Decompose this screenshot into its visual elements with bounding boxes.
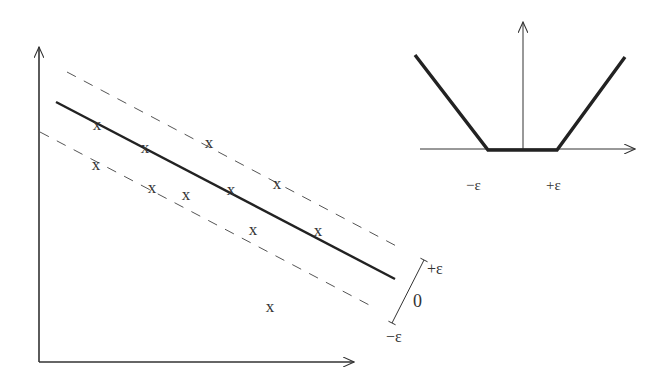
svr-epsilon-tube-figure: xxxxxxxxxxx +ε 0 −ε −ε +ε bbox=[0, 0, 666, 388]
upper-epsilon-margin-line bbox=[67, 72, 402, 249]
data-points: xxxxxxxxxxx bbox=[92, 115, 323, 316]
epsilon-insensitive-loss-curve bbox=[415, 55, 625, 150]
label-plus-epsilon: +ε bbox=[427, 260, 443, 277]
data-point-marker: x bbox=[227, 180, 236, 199]
inset-label-minus-epsilon: −ε bbox=[466, 177, 481, 193]
inset-loss-plot: −ε +ε bbox=[415, 22, 635, 193]
lower-epsilon-margin-line bbox=[40, 132, 373, 307]
data-point-marker: x bbox=[273, 174, 282, 193]
data-point-marker: x bbox=[314, 221, 323, 240]
regression-line bbox=[56, 102, 395, 279]
data-point-marker: x bbox=[92, 155, 101, 174]
inset-label-plus-epsilon: +ε bbox=[546, 177, 561, 193]
tube-width-bracket: +ε 0 −ε bbox=[386, 258, 443, 345]
label-zero: 0 bbox=[413, 291, 422, 311]
bracket-cap-bottom bbox=[388, 321, 395, 325]
data-point-marker: x bbox=[249, 220, 258, 239]
data-point-marker: x bbox=[93, 115, 102, 134]
label-minus-epsilon: −ε bbox=[386, 328, 402, 345]
data-point-marker: x bbox=[148, 178, 157, 197]
data-point-marker: x bbox=[182, 185, 191, 204]
data-point-marker: x bbox=[266, 297, 275, 316]
main-plot: xxxxxxxxxxx +ε 0 −ε bbox=[39, 47, 443, 362]
data-point-marker: x bbox=[141, 138, 150, 157]
data-point-marker: x bbox=[205, 133, 214, 152]
